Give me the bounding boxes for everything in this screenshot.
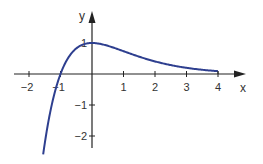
x-axis-arrow [234,71,246,78]
y-axis-label: y [79,9,85,23]
y-axis-arrow [89,11,96,23]
curve-series-f [43,43,218,154]
y-tick-label: −1 [74,99,87,111]
x-tick-label: 3 [183,81,189,93]
y-tick-label: −2 [74,130,87,142]
curve-layer [43,43,218,154]
x-axis-label: x [240,81,246,95]
x-tick-label: 4 [215,81,221,93]
x-tick-label: 1 [120,81,126,93]
function-plot: −2−112341−1−2 x y [0,0,263,164]
x-tick-label: −2 [21,81,34,93]
ticks: −2−112341−1−2 [21,37,221,142]
x-tick-label: 2 [152,81,158,93]
axes [14,11,246,148]
